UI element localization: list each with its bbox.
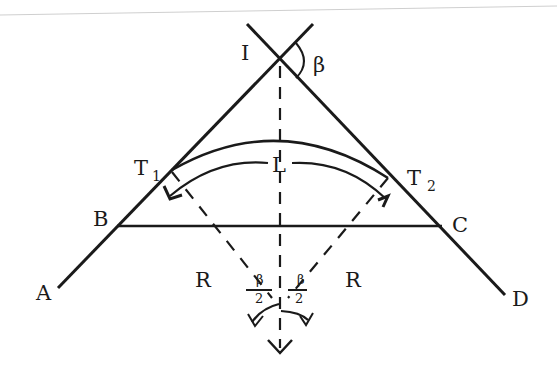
half-angle-tick-left <box>248 314 263 326</box>
label-beta: β <box>313 53 325 77</box>
top-rule <box>0 6 557 15</box>
half-angle-right-numerator: β <box>297 272 305 287</box>
label-c: C <box>452 213 468 237</box>
label-i: I <box>241 41 249 65</box>
label-l: L <box>272 153 286 177</box>
length-arrow-left <box>170 162 268 196</box>
half-angle-right-denominator: 2 <box>295 291 303 306</box>
deflection-angle-arc <box>296 43 304 78</box>
label-a: A <box>35 281 52 305</box>
curve-diagram: I β T 1 T 2 L B C A D R R β 2 β 2 <box>0 0 557 378</box>
label-t1-subscript: 1 <box>152 168 161 184</box>
label-radius-right: R <box>345 268 362 292</box>
half-angle-arc-right <box>281 311 308 320</box>
label-t2-subscript: 2 <box>427 178 436 194</box>
label-radius-left: R <box>195 268 212 292</box>
arrowhead-right-icon <box>378 196 388 207</box>
half-angle-arc-left <box>252 304 279 322</box>
label-t1: T <box>134 156 148 180</box>
half-angle-left-denominator: 2 <box>255 291 263 306</box>
label-d: D <box>512 287 529 311</box>
half-angle-left-numerator: β <box>256 272 264 287</box>
label-t2: T <box>407 166 421 190</box>
label-b: B <box>93 207 108 231</box>
